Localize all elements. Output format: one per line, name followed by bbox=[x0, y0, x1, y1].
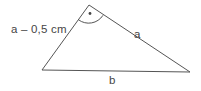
label-right-side: a bbox=[134, 29, 140, 41]
label-left-side: a – 0,5 cm bbox=[11, 24, 67, 36]
triangle-drawing bbox=[0, 0, 201, 91]
geometry-figure: a – 0,5 cm a b bbox=[0, 0, 201, 91]
triangle-side-left bbox=[42, 5, 89, 70]
triangle-side-bottom bbox=[42, 70, 190, 72]
apex-angle-arc bbox=[78, 15, 103, 23]
label-bottom-side: b bbox=[109, 75, 115, 87]
apex-angle-dot-icon bbox=[89, 12, 92, 15]
